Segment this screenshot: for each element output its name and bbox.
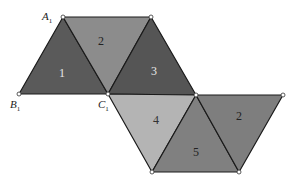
face-3-label: 3 xyxy=(151,64,157,78)
vertex-a1 xyxy=(61,15,65,19)
face-4-label: 4 xyxy=(153,113,159,127)
vertex-b1 xyxy=(17,92,21,96)
vertex-bottom-left xyxy=(150,170,154,174)
label-c1: C1 xyxy=(98,98,109,113)
vertex-bottom-right xyxy=(237,170,241,174)
vertex-mid-right xyxy=(194,93,198,97)
vertex-far-right xyxy=(281,93,285,97)
face-2-right-label: 2 xyxy=(236,109,242,123)
face-1-label: 1 xyxy=(59,66,65,80)
label-a1: A1 xyxy=(41,10,53,25)
label-b1: B1 xyxy=(10,98,21,113)
vertex-c1 xyxy=(106,92,110,96)
face-2-top-label: 2 xyxy=(98,34,104,48)
triangle-net-diagram: 1 2 3 4 5 2 A1 B1 C1 xyxy=(0,0,293,188)
vertex-top-right xyxy=(149,15,153,19)
face-5-label: 5 xyxy=(193,145,199,159)
